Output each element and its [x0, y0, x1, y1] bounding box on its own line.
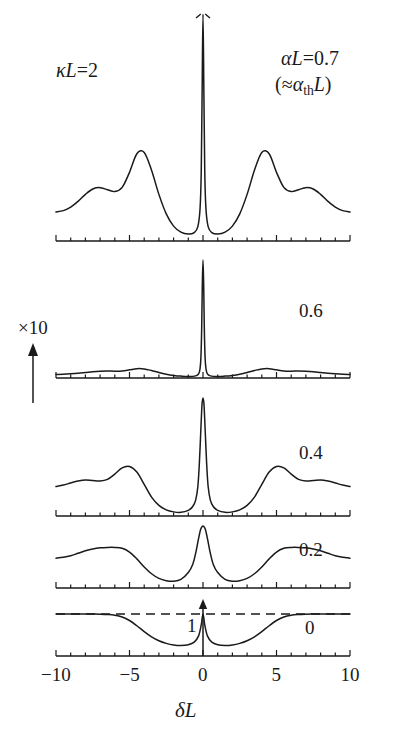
alpha-l-annotation: αL=0.7 [281, 48, 339, 68]
panel-axis-0-2 [56, 582, 350, 588]
panel-axis-0-7 [56, 235, 350, 241]
kappa-l-annotation: κL=2 [56, 60, 98, 80]
x-tick-label-neg5: −5 [120, 664, 140, 686]
panel-label-0: 0 [305, 618, 315, 637]
plot-canvas [0, 0, 393, 732]
panel-axis-0-4 [56, 510, 350, 516]
x-tick-label-10: 10 [341, 664, 360, 686]
spectrum-figure: κL=2 αL=0.7 (≈αthL) ×10 0.6 0.4 0.2 0 1 … [0, 0, 393, 732]
panel-label-0-2: 0.2 [299, 540, 323, 559]
x-tick-label-5: 5 [272, 664, 282, 686]
panel-label-0-4: 0.4 [299, 443, 323, 462]
panel-axis-0-6 [56, 372, 350, 378]
scale-multiplier-label: ×10 [18, 318, 48, 337]
x-tick-label-0: 0 [198, 664, 208, 686]
delta-function-arrowhead [199, 599, 207, 609]
unity-level-label: 1 [187, 616, 197, 635]
x-tick-label-neg10: −10 [41, 664, 71, 686]
alpha-threshold-annotation: (≈αthL) [275, 74, 332, 97]
scale-multiplier-arrow [28, 343, 38, 403]
x-axis-title: δL [175, 700, 196, 721]
panel-label-0-6: 0.6 [299, 301, 323, 320]
